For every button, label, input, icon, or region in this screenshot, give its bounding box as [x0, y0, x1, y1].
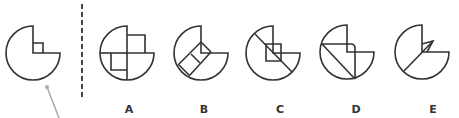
- inner-line: [201, 42, 211, 52]
- option-shape-d: [320, 25, 374, 79]
- option-shape-c: [246, 26, 300, 80]
- option-shape-b: [174, 26, 228, 80]
- option-label-b[interactable]: B: [194, 103, 214, 116]
- option-label-c[interactable]: C: [270, 103, 290, 116]
- option-shape-a: [100, 26, 154, 80]
- three-quarter-circle-outline: [6, 26, 60, 80]
- option-label-e[interactable]: E: [423, 103, 443, 116]
- figure-puzzle: [0, 0, 459, 118]
- option-label-a[interactable]: A: [119, 103, 139, 116]
- option-shape-e: [395, 25, 449, 79]
- three-quarter-circle-outline: [174, 26, 228, 80]
- options-group: [100, 25, 449, 80]
- pointer-line: [47, 87, 59, 118]
- inner-line: [322, 44, 355, 79]
- pointer-dot: [45, 85, 49, 89]
- inner-line: [404, 41, 433, 71]
- reference-shape: [6, 26, 60, 80]
- inner-line: [111, 53, 127, 70]
- inner-line: [127, 35, 145, 53]
- reference-figure: [6, 26, 60, 80]
- option-label-d[interactable]: D: [346, 103, 366, 116]
- inner-line: [33, 43, 43, 53]
- inner-line: [191, 54, 200, 63]
